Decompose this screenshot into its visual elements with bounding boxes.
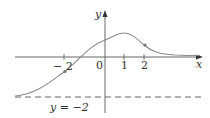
x-axis-label: x: [196, 58, 203, 71]
function-curve: [15, 33, 200, 96]
graph: y x − 2 0 1 2 y = −2: [0, 0, 210, 118]
asymptote-label: y = −2: [49, 101, 89, 114]
tick-label-0: 0: [96, 59, 103, 72]
tick-label-1: 1: [121, 59, 128, 72]
y-axis-label: y: [94, 8, 102, 21]
tick-label-neg2: − 2: [53, 60, 73, 73]
y-axis-arrow-icon: [103, 10, 108, 17]
inflection-point-right: [143, 43, 146, 46]
tick-label-2: 2: [141, 59, 148, 72]
